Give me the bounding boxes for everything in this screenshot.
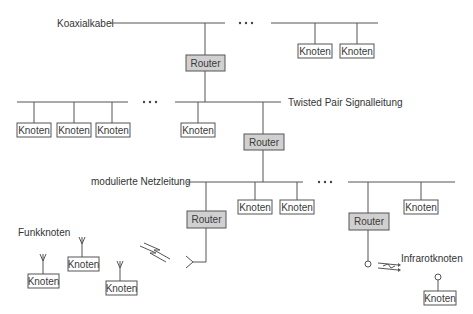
svg-text:Knoten: Knoten — [68, 259, 100, 270]
radio-wave-icon — [140, 243, 170, 262]
node-netz-1: Knoten — [238, 200, 272, 214]
label-koaxialkabel: Koaxialkabel — [57, 18, 114, 29]
router-4: Router — [349, 213, 389, 230]
node-netz-3: Knoten — [404, 200, 438, 214]
twisted-pair-segment: Twisted Pair Signalleitung Knoten Knoten… — [17, 97, 403, 182]
node-funk-2: Knoten — [68, 257, 100, 271]
label-funkknoten: Funkknoten — [18, 227, 70, 238]
svg-text:Knoten: Knoten — [341, 46, 373, 57]
svg-text:Router: Router — [354, 216, 385, 227]
network-diagram: Koaxialkabel Knoten Knoten Router — [0, 0, 473, 314]
coax-segment: Koaxialkabel Knoten Knoten Router — [57, 18, 378, 102]
svg-text:Knoten: Knoten — [299, 46, 331, 57]
ellipsis-icon — [239, 22, 253, 24]
svg-text:Knoten: Knoten — [182, 125, 214, 136]
node-coax-1: Knoten — [298, 44, 332, 58]
svg-text:Router: Router — [249, 137, 280, 148]
infrarot-segment: Infrarotknoten Knoten — [378, 253, 463, 305]
node-funk-3: Knoten — [106, 281, 138, 295]
svg-text:Knoten: Knoten — [28, 276, 60, 287]
infrared-port-icon — [365, 261, 371, 267]
node-coax-2: Knoten — [340, 44, 374, 58]
ellipsis-icon — [318, 181, 332, 183]
node-tp-3: Knoten — [96, 123, 130, 137]
node-funk-1: Knoten — [28, 274, 60, 288]
antenna-icon — [186, 256, 193, 268]
svg-text:Knoten: Knoten — [58, 125, 90, 136]
svg-text:Router: Router — [191, 214, 222, 225]
label-infrarotknoten: Infrarotknoten — [401, 253, 463, 264]
svg-text:Knoten: Knoten — [97, 125, 129, 136]
svg-text:Router: Router — [190, 58, 221, 69]
infrared-beam-icon — [378, 263, 401, 272]
svg-text:Knoten: Knoten — [405, 202, 437, 213]
antenna-icon — [117, 261, 123, 281]
funk-segment: Funkknoten Knoten Knoten Knoten — [18, 227, 170, 295]
node-tp-2: Knoten — [57, 123, 91, 137]
node-infrarot-1: Knoten — [424, 291, 456, 305]
node-tp-4: Knoten — [181, 123, 215, 137]
antenna-icon — [79, 237, 85, 257]
router-2: Router — [244, 134, 284, 150]
infrared-port-icon — [435, 274, 441, 280]
svg-text:Knoten: Knoten — [424, 293, 456, 304]
node-tp-1: Knoten — [17, 123, 51, 137]
label-twisted-pair: Twisted Pair Signalleitung — [288, 97, 403, 108]
svg-text:Knoten: Knoten — [18, 125, 50, 136]
router-1: Router — [186, 55, 225, 71]
antenna-icon — [40, 254, 46, 274]
ellipsis-icon — [143, 101, 157, 103]
node-netz-2: Knoten — [280, 200, 314, 214]
svg-text:Knoten: Knoten — [106, 283, 138, 294]
svg-text:Knoten: Knoten — [239, 202, 271, 213]
label-netzleitung: modulierte Netzleitung — [91, 176, 191, 187]
router-3: Router — [187, 211, 226, 228]
svg-text:Knoten: Knoten — [281, 202, 313, 213]
